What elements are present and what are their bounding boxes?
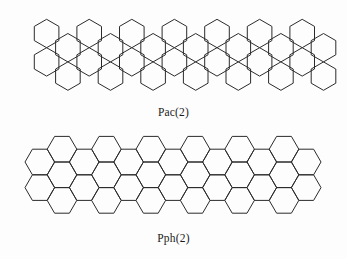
hexagon: [69, 175, 99, 201]
pac-diagram: [0, 0, 347, 104]
hexagon: [158, 175, 188, 201]
hexagon: [47, 162, 77, 188]
hexagon: [291, 175, 321, 201]
hexagon: [269, 188, 299, 214]
pac-hexagon-grid: [34, 19, 336, 90]
figure-pph: Pph(2): [0, 128, 347, 259]
figure-pph-caption: Pph(2): [0, 232, 347, 244]
hexagon: [136, 188, 166, 214]
hexagon: [291, 149, 321, 175]
hexagon: [269, 162, 299, 188]
figure-pac: Pac(2): [0, 0, 347, 128]
hexagon: [69, 149, 99, 175]
hexagon: [114, 149, 144, 175]
hexagon: [180, 162, 210, 188]
hexagon: [47, 136, 77, 162]
pph-hexagon-grid: [25, 136, 321, 213]
hexagon: [247, 149, 277, 175]
hexagon: [114, 175, 144, 201]
hexagon: [92, 162, 122, 188]
hexagon: [136, 136, 166, 162]
hexagon: [203, 149, 233, 175]
hexagon: [225, 162, 255, 188]
hexagon: [25, 175, 55, 201]
hexagon: [247, 175, 277, 201]
hexagon: [158, 149, 188, 175]
hexagon: [180, 136, 210, 162]
hexagon: [25, 149, 55, 175]
hexagon: [203, 175, 233, 201]
hexagon: [225, 188, 255, 214]
hexagon: [92, 188, 122, 214]
pph-diagram: [0, 128, 347, 228]
hexagon: [47, 188, 77, 214]
hexagon: [269, 136, 299, 162]
hexagon: [92, 136, 122, 162]
hexagon: [180, 188, 210, 214]
hexagon: [225, 136, 255, 162]
figure-pac-caption: Pac(2): [0, 106, 347, 118]
hexagon: [136, 162, 166, 188]
